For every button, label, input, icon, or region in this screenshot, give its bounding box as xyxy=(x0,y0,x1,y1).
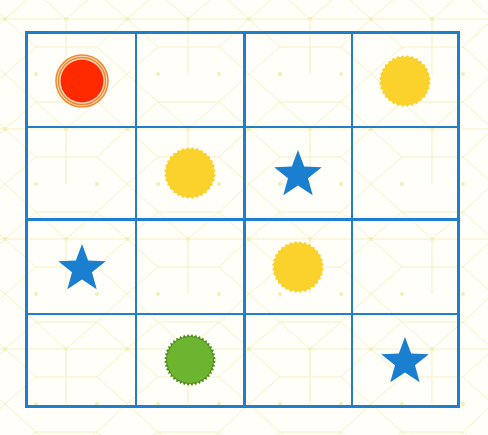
sun-icon xyxy=(268,237,328,297)
cell-r2-c2[interactable] xyxy=(136,127,244,219)
cell-r2-c4[interactable] xyxy=(352,127,457,219)
sun-icon xyxy=(375,51,435,111)
cell-r2-c1[interactable] xyxy=(28,127,136,219)
sudoku-board xyxy=(25,31,460,408)
red-circle-icon xyxy=(52,51,112,111)
cell-r3-c3[interactable] xyxy=(244,219,352,314)
cell-r1-c3[interactable] xyxy=(244,34,352,127)
cell-r1-c1[interactable] xyxy=(28,34,136,127)
cell-r4-c1[interactable] xyxy=(28,314,136,405)
cell-r3-c1[interactable] xyxy=(28,219,136,314)
cell-r1-c4[interactable] xyxy=(352,34,457,127)
cell-r3-c2[interactable] xyxy=(136,219,244,314)
cell-r4-c4[interactable] xyxy=(352,314,457,405)
cell-r3-c4[interactable] xyxy=(352,219,457,314)
cell-r4-c3[interactable] xyxy=(244,314,352,405)
cell-r2-c3[interactable] xyxy=(244,127,352,219)
sun-icon xyxy=(160,143,220,203)
star-icon xyxy=(52,237,112,297)
star-icon xyxy=(375,330,435,390)
cell-r4-c2[interactable] xyxy=(136,314,244,405)
green-circle-icon xyxy=(160,330,220,390)
star-icon xyxy=(268,143,328,203)
cell-r1-c2[interactable] xyxy=(136,34,244,127)
